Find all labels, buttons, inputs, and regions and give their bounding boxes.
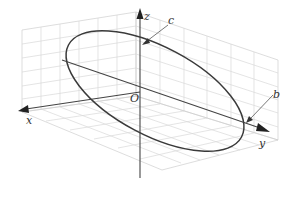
x-axis-label: x [26, 114, 33, 127]
c-pointer-line [147, 25, 168, 41]
z-axis-arrow-icon [137, 8, 144, 19]
x-axis [26, 92, 140, 109]
back-right-wall-grid [136, 12, 278, 140]
floor-grid [22, 96, 278, 170]
axes [18, 8, 270, 178]
y-axis-arrow-icon [256, 123, 270, 132]
z-axis-label: z [143, 10, 150, 23]
back-left-wall-grid [22, 12, 136, 112]
ellipse-curve [48, 6, 262, 176]
y-axis-label: y [258, 137, 266, 150]
c-label: c [168, 14, 174, 27]
annotation-pointers [142, 25, 273, 123]
origin-label: O [130, 92, 139, 105]
y-axis [62, 60, 260, 128]
x-axis-arrow-icon [18, 105, 29, 113]
ellipse-3d-diagram: z c O x y b [0, 0, 295, 198]
b-label: b [273, 88, 280, 101]
